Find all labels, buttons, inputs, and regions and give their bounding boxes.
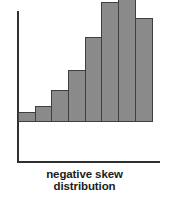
histogram-bar: [101, 2, 119, 122]
histogram-bar: [51, 90, 69, 122]
caption-line-2: distribution: [0, 181, 169, 193]
histogram-bar: [68, 70, 86, 122]
negative-skew-histogram-figure: negative skew distribution: [0, 0, 169, 206]
histogram-bar: [135, 18, 153, 122]
plot-area: [0, 0, 169, 166]
histogram-bar: [18, 112, 36, 122]
histogram-bar: [35, 106, 53, 122]
histogram-bars: [18, 0, 153, 122]
x-axis-baseline: [17, 161, 160, 163]
histogram-bar: [118, 0, 136, 122]
histogram-bar: [85, 37, 103, 122]
chart-caption: negative skew distribution: [0, 169, 169, 192]
caption-line-1: negative skew: [0, 169, 169, 181]
